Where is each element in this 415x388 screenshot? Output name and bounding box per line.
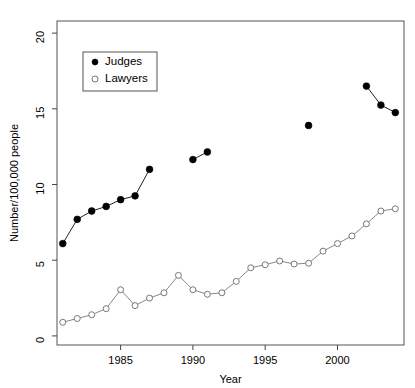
data-point-judges [117, 196, 124, 203]
data-point-lawyers [291, 261, 297, 267]
data-point-judges [392, 109, 399, 116]
y-tick-label-15: 15 [34, 107, 46, 119]
line-chart: 051015201985199019952000YearNumber/100,0… [0, 0, 415, 388]
data-point-lawyers [277, 258, 283, 264]
data-point-judges [132, 192, 139, 199]
data-point-judges [103, 203, 110, 210]
data-point-lawyers [349, 233, 355, 239]
data-point-lawyers [175, 272, 181, 278]
data-point-lawyers [320, 248, 326, 254]
data-point-lawyers [204, 291, 210, 297]
data-point-judges [305, 122, 312, 129]
legend-marker-lawyers-icon [92, 76, 98, 82]
data-point-judges [59, 240, 66, 247]
data-point-judges [88, 208, 95, 215]
data-point-lawyers [262, 262, 268, 268]
y-tick-label-0: 0 [34, 337, 46, 343]
data-point-lawyers [89, 312, 95, 318]
legend-label-lawyers: Lawyers [105, 72, 148, 84]
data-point-judges [204, 149, 211, 156]
x-axis-title: Year [219, 373, 242, 385]
data-point-judges [190, 156, 197, 163]
data-point-lawyers [334, 241, 340, 247]
data-point-lawyers [233, 278, 239, 284]
y-tick-label-20: 20 [34, 31, 46, 43]
data-point-judges [146, 166, 153, 173]
x-tick-label-1995: 1995 [253, 354, 277, 366]
data-point-lawyers [161, 290, 167, 296]
data-point-lawyers [74, 316, 80, 322]
y-axis-title: Number/100,000 people [8, 124, 20, 242]
chart-container: 051015201985199019952000YearNumber/100,0… [0, 0, 415, 388]
data-point-lawyers [248, 265, 254, 271]
legend-label-judges: Judges [105, 55, 142, 67]
data-point-lawyers [118, 287, 124, 293]
data-point-lawyers [103, 306, 109, 312]
data-point-lawyers [147, 295, 153, 301]
x-tick-label-1990: 1990 [181, 354, 205, 366]
data-point-lawyers [190, 287, 196, 293]
series-line-lawyers [63, 209, 396, 323]
data-point-lawyers [306, 260, 312, 266]
data-point-lawyers [363, 221, 369, 227]
data-point-lawyers [378, 208, 384, 214]
y-tick-label-10: 10 [34, 182, 46, 194]
y-tick-label-5: 5 [34, 261, 46, 267]
legend-marker-judges-icon [92, 59, 98, 65]
data-point-judges [377, 102, 384, 109]
data-point-judges [363, 83, 370, 90]
data-point-lawyers [392, 206, 398, 212]
data-point-judges [74, 216, 81, 223]
x-tick-label-1985: 1985 [108, 354, 132, 366]
data-point-lawyers [132, 303, 138, 309]
data-point-lawyers [219, 290, 225, 296]
x-tick-label-2000: 2000 [325, 354, 349, 366]
data-point-lawyers [60, 319, 66, 325]
